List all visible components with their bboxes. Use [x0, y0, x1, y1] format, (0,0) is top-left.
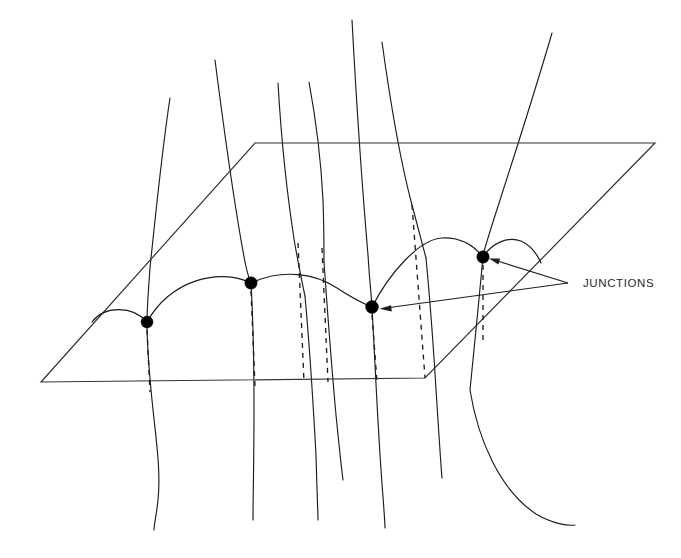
junctions-diagram: JUNCTIONS: [0, 0, 681, 558]
junction-dot-1[interactable]: [141, 316, 153, 328]
junction-dot-3[interactable]: [366, 301, 379, 314]
junctions-label: JUNCTIONS: [583, 277, 654, 289]
diagram-canvas: JUNCTIONS: [0, 0, 681, 558]
diagram-background: [0, 0, 681, 558]
junction-dot-2[interactable]: [245, 277, 257, 289]
junction-dot-4[interactable]: [477, 251, 489, 263]
